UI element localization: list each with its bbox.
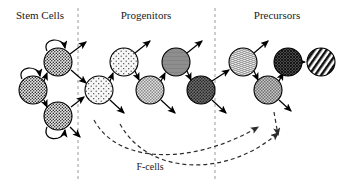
arrow-prog1-to-prog2 — [110, 73, 113, 81]
cell-prec-2 — [254, 76, 282, 104]
cell-stem-3 — [44, 102, 72, 130]
arrow-prec2-out-down — [279, 100, 291, 111]
feedback-label: F-cells — [136, 161, 163, 172]
arrow-prog2-to-prog3 — [135, 71, 139, 80]
arrow-prog1-out-down — [110, 100, 124, 113]
arrow-prog4-out-up — [187, 41, 202, 53]
cell-stem-1 — [19, 76, 47, 104]
arrow-prec1-out-up — [254, 41, 268, 53]
arrow-stem1-to-stem2 — [44, 73, 47, 81]
cell-prog-4 — [162, 48, 190, 76]
diagram-canvas: Stem Cells Progenitors Precursors — [0, 0, 339, 189]
cell-prec-4 — [307, 48, 335, 76]
feedback-vertical-connector — [274, 112, 278, 135]
arrow-prog2-out-up — [135, 41, 150, 53]
feedback-curve-upper — [94, 120, 258, 155]
cell-prec-1 — [229, 48, 257, 76]
feedback-curve-lower — [120, 124, 278, 165]
cell-prec-3 — [274, 48, 302, 76]
cell-prog-1 — [85, 76, 113, 104]
cell-prog-5 — [187, 76, 215, 104]
arrow-stem1-to-stem3 — [44, 100, 47, 107]
arrow-prog4-to-prog5 — [187, 71, 191, 80]
cell-prog-2 — [110, 48, 138, 76]
differentiation-diagram: Stem Cells Progenitors Precursors — [0, 0, 339, 189]
arrow-prog3-to-prog4 — [161, 73, 165, 81]
arrow-prog5-out-down — [212, 100, 226, 113]
stage-label-stem-cells: Stem Cells — [16, 9, 64, 21]
cell-stem-2 — [44, 48, 72, 76]
stage-label-precursors: Precursors — [254, 9, 300, 21]
arrow-prog3-out-down — [161, 100, 175, 113]
cell-prog-3 — [136, 76, 164, 104]
stage-label-progenitors: Progenitors — [121, 9, 172, 21]
arrow-prec1-to-prec2 — [254, 71, 258, 80]
